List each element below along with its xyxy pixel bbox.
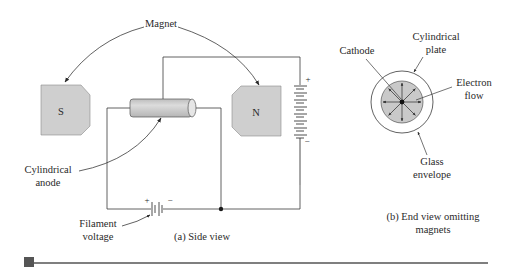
end-view-caption-2: magnets bbox=[416, 224, 451, 235]
cylindrical-plate-label-2: plate bbox=[426, 44, 447, 55]
hv-battery-plus: + bbox=[305, 74, 310, 84]
end-view-caption: (b) End view omitting bbox=[386, 211, 480, 223]
filament-battery-minus: − bbox=[167, 195, 172, 205]
cylindrical-plate-label: Cylindrical bbox=[412, 31, 459, 42]
magnetron-diagram: Magnet S N Cylindrical bbox=[0, 0, 509, 267]
filament-battery-plus: + bbox=[144, 195, 149, 205]
magnet-arrow-left bbox=[65, 27, 144, 82]
cylindrical-anode-label: Cylindrical bbox=[24, 164, 71, 175]
magnet-label: Magnet bbox=[145, 18, 177, 29]
electron-flow-label-2: flow bbox=[464, 90, 484, 101]
south-magnet-pole bbox=[41, 85, 90, 135]
glass-envelope-label: Glass bbox=[420, 156, 443, 167]
south-pole-label: S bbox=[58, 106, 64, 117]
glass-envelope-label-2: envelope bbox=[413, 169, 451, 180]
cylindrical-anode bbox=[130, 99, 196, 117]
cylindrical-anode-label-2: anode bbox=[35, 177, 60, 188]
anode-pointer-arrow bbox=[79, 118, 161, 171]
glass-envelope-pointer bbox=[418, 132, 427, 155]
figure-footer-rule bbox=[24, 257, 488, 267]
filament-voltage-label-2: voltage bbox=[83, 231, 114, 242]
footer-marker bbox=[24, 257, 34, 267]
filament-voltage-label: Filament bbox=[79, 218, 116, 229]
cylindrical-plate-pointer bbox=[414, 57, 423, 72]
filament-pointer-arrow bbox=[122, 215, 150, 226]
north-pole-label: N bbox=[252, 107, 260, 118]
cathode-label: Cathode bbox=[340, 45, 375, 56]
cathode-dot bbox=[400, 100, 405, 105]
side-view-caption: (a) Side view bbox=[174, 231, 230, 243]
filament-battery bbox=[152, 202, 162, 216]
end-view: Cathode Cylindrical plate Electron flow … bbox=[340, 31, 493, 235]
hv-battery-minus: − bbox=[304, 136, 309, 146]
magnet-arrow-right bbox=[178, 27, 259, 85]
junction-dot bbox=[219, 207, 223, 211]
side-view: Magnet S N Cylindrical bbox=[24, 18, 310, 243]
electron-flow-label: Electron bbox=[456, 77, 492, 88]
